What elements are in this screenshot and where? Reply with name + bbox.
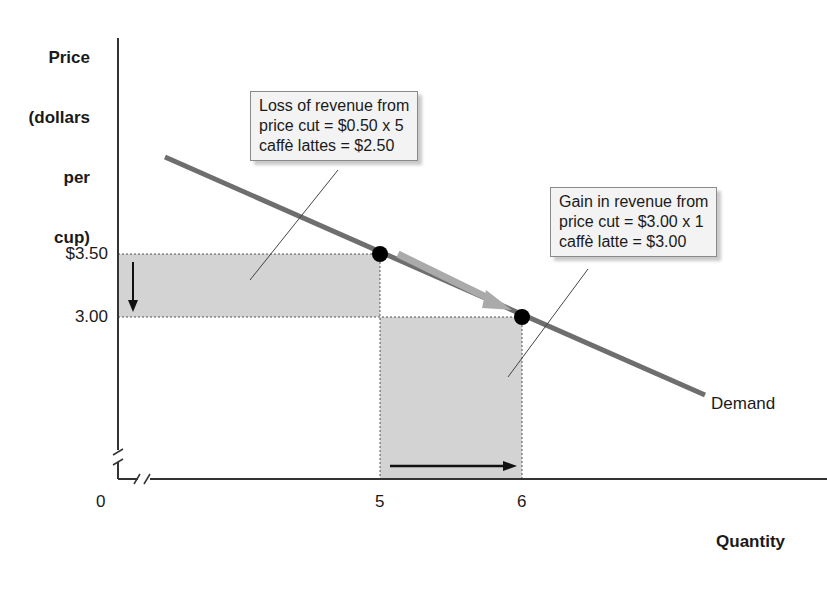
point-6-300 — [514, 309, 530, 325]
movement-arrow-icon — [398, 254, 512, 310]
gain-annotation-box: Gain in revenue from price cut = $3.00 x… — [550, 187, 717, 257]
loss-annotation-box: Loss of revenue from price cut = $0.50 x… — [250, 91, 418, 161]
x-tick-0: 0 — [96, 492, 105, 512]
x-tick-6: 6 — [517, 492, 526, 512]
y-tick-300: 3.00 — [40, 307, 108, 327]
point-5-350 — [372, 246, 388, 262]
y-axis-title: Price (dollars per cup) — [10, 8, 90, 268]
x-axis-title: Quantity (caffè lattes per week) — [640, 492, 785, 591]
y-tick-350: $3.50 — [40, 244, 108, 264]
loss-revenue-region — [118, 254, 380, 317]
gain-revenue-region — [380, 317, 522, 479]
demand-label: Demand — [711, 394, 775, 414]
x-tick-5: 5 — [375, 492, 384, 512]
